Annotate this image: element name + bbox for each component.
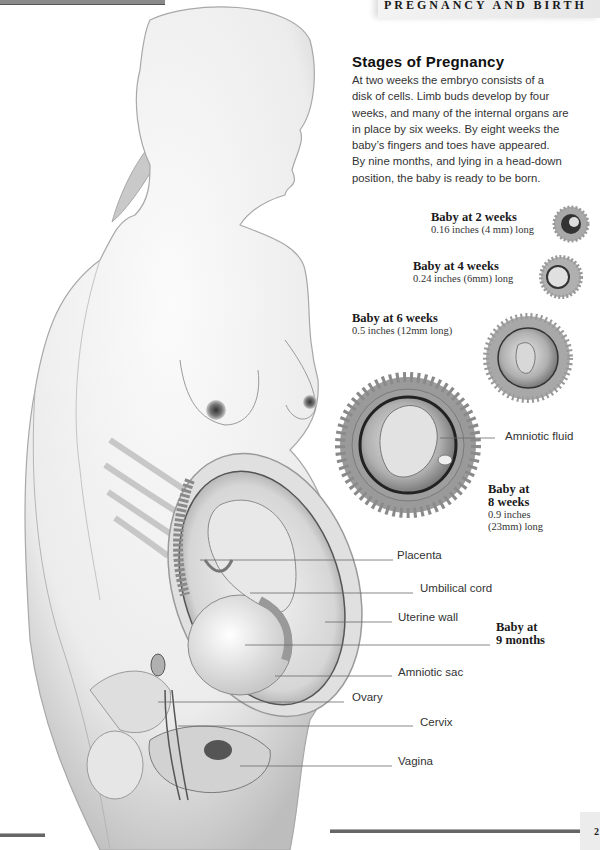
embryo-4-weeks	[541, 257, 581, 297]
stage-title: Baby at 6 weeks	[352, 312, 452, 325]
stage-title-line2: 8 weeks	[488, 496, 543, 509]
label-placenta: Placenta	[397, 549, 442, 561]
stage-size: 0.24 inches (6mm) long	[413, 273, 513, 285]
label-umbilical-cord: Umbilical cord	[420, 582, 492, 594]
stage-size-line2: (23mm) long	[488, 521, 543, 533]
label-amniotic-fluid: Amniotic fluid	[505, 430, 573, 442]
stage-6-weeks: Baby at 6 weeks 0.5 inches (12mm long)	[352, 312, 452, 337]
stage-title: Baby at 2 weeks	[431, 211, 534, 224]
stage-4-weeks: Baby at 4 weeks 0.24 inches (6mm) long	[413, 260, 513, 285]
stage-title: Baby at 4 weeks	[413, 260, 513, 273]
page-number: 2	[594, 826, 599, 837]
body-outline	[25, 7, 345, 850]
embryo-8-weeks	[340, 377, 495, 513]
label-cervix: Cervix	[420, 716, 453, 728]
label-uterine-wall: Uterine wall	[398, 611, 458, 623]
stage-9-months: Baby at 9 months	[496, 621, 545, 647]
page-number-tab: 2	[580, 812, 600, 850]
intro-block: Stages of Pregnancy At two weeks the emb…	[352, 53, 597, 186]
stage-size: 0.5 inches (12mm long)	[352, 325, 452, 337]
bottom-rule-left	[0, 833, 45, 837]
intro-text: At two weeks the embryo consists of a di…	[352, 72, 597, 186]
label-vagina: Vagina	[398, 755, 433, 767]
stage-size: 0.16 inches (4 mm) long	[431, 224, 534, 236]
stage-8-weeks: Baby at 8 weeks 0.9 inches (23mm) long	[488, 483, 543, 533]
bottom-rule-right	[330, 829, 582, 833]
label-amniotic-sac: Amniotic sac	[398, 666, 463, 678]
intro-title: Stages of Pregnancy	[352, 53, 597, 70]
embryo-6-weeks	[486, 316, 570, 400]
label-ovary: Ovary	[352, 691, 383, 703]
stage-9-months-line2: 9 months	[496, 634, 545, 647]
embryo-2-weeks	[554, 207, 588, 241]
stage-2-weeks: Baby at 2 weeks 0.16 inches (4 mm) long	[431, 211, 534, 236]
stage-size-line1: 0.9 inches	[488, 509, 543, 521]
